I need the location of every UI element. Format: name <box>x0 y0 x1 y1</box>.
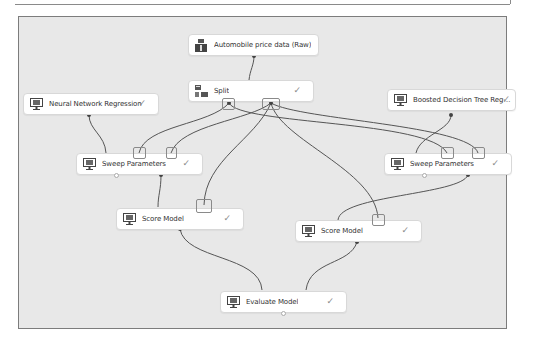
monitor-icon <box>29 97 43 111</box>
module-score-model-2[interactable]: Score Model ✓ <box>295 220 422 242</box>
status-check-icon: ✓ <box>491 158 499 168</box>
sweep1-input-port-2[interactable] <box>166 147 177 159</box>
monitor-icon <box>301 224 315 238</box>
dataset-icon <box>194 38 208 52</box>
module-neural-network-regression[interactable]: Neural Network Regression ✓ <box>23 93 159 115</box>
status-check-icon: ✓ <box>326 296 334 306</box>
sweep2-input-port-2[interactable] <box>472 147 485 159</box>
split-output-port-1[interactable] <box>222 98 235 110</box>
monitor-icon <box>390 157 404 171</box>
module-label: Split <box>214 87 229 95</box>
module-boosted-decision-tree-regression[interactable]: Boosted Decision Tree Regress... ✓ <box>387 89 516 111</box>
status-check-icon: ✓ <box>223 213 231 223</box>
sweep2-input-port-1[interactable] <box>441 147 454 159</box>
status-check-icon: ✓ <box>502 94 510 104</box>
monitor-icon <box>82 157 96 171</box>
sweep2-output-port-open[interactable] <box>422 173 427 178</box>
module-label: Automobile price data (Raw) <box>214 41 311 49</box>
module-automobile-price-data[interactable]: Automobile price data (Raw) <box>188 34 319 56</box>
module-label: Sweep Parameters <box>410 160 474 168</box>
sweep1-input-port-1[interactable] <box>133 147 146 159</box>
evaluate-output-port-open[interactable] <box>281 311 286 316</box>
monitor-icon <box>122 212 136 226</box>
module-label: Score Model <box>321 227 363 235</box>
top-rule-notch <box>510 0 511 4</box>
status-check-icon: ✓ <box>182 158 190 168</box>
module-split[interactable]: Split ✓ <box>188 80 314 102</box>
sweep1-output-port-open[interactable] <box>114 173 119 178</box>
status-check-icon: ✓ <box>293 85 301 95</box>
module-label: Sweep Parameters <box>102 160 166 168</box>
status-check-icon: ✓ <box>138 98 146 108</box>
top-rule <box>15 4 510 5</box>
split-output-port-2[interactable] <box>262 98 280 110</box>
module-label: Evaluate Model <box>246 298 298 306</box>
score2-input-port-2[interactable] <box>372 214 385 226</box>
module-evaluate-model[interactable]: Evaluate Model ✓ <box>220 291 347 313</box>
module-score-model-1[interactable]: Score Model ✓ <box>116 208 244 230</box>
module-label: Score Model <box>142 215 184 223</box>
module-label: Boosted Decision Tree Regress... <box>413 96 511 104</box>
split-icon <box>194 84 208 98</box>
status-check-icon: ✓ <box>401 225 409 235</box>
module-label: Neural Network Regression <box>49 100 142 108</box>
monitor-icon <box>226 295 240 309</box>
monitor-icon <box>393 93 407 107</box>
score1-input-port-2[interactable] <box>196 199 212 213</box>
